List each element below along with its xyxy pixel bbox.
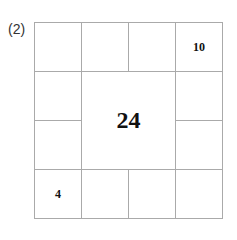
center-cell: 24 [81, 71, 176, 170]
grid-cell-r2c3[interactable] [175, 120, 223, 170]
problem-label: (2) [8, 21, 25, 37]
grid-cell-r0c3: 10 [175, 22, 223, 72]
grid-cell-r1c3[interactable] [175, 71, 223, 121]
grid-cell-r2c0[interactable] [34, 120, 82, 170]
grid-cell-r0c0[interactable] [34, 22, 82, 72]
grid-cell-r3c3[interactable] [175, 169, 223, 219]
grid-cell-r0c1[interactable] [81, 22, 129, 72]
grid-cell-r1c0[interactable] [34, 71, 82, 121]
grid-cell-r3c0: 4 [34, 169, 82, 219]
number-grid: 10 24 4 [34, 22, 223, 219]
grid-cell-r3c2[interactable] [128, 169, 176, 219]
grid-cell-r0c2[interactable] [128, 22, 176, 72]
grid-cell-r3c1[interactable] [81, 169, 129, 219]
